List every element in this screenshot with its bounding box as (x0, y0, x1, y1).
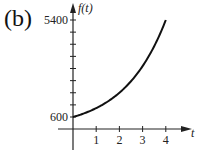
svg-text:600: 600 (50, 110, 68, 124)
y-axis-arrow-icon (70, 3, 76, 13)
y-ticks: 6005400 (44, 13, 76, 124)
y-axis-label: f(t) (78, 1, 93, 15)
svg-text:1: 1 (93, 133, 99, 147)
svg-text:3: 3 (140, 133, 146, 147)
svg-text:4: 4 (163, 133, 169, 147)
chart: 6005400 1234 f(t) t (0, 0, 199, 152)
x-axis-label: t (191, 126, 195, 140)
svg-text:2: 2 (116, 133, 122, 147)
svg-text:5400: 5400 (44, 13, 68, 27)
series-line (73, 20, 166, 117)
